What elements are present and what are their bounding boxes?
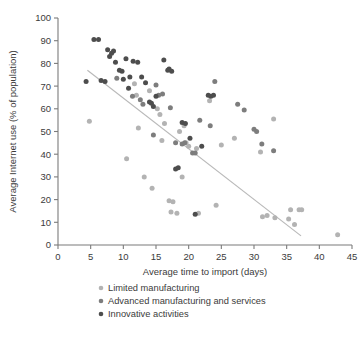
data-point (136, 126, 141, 131)
data-point (286, 216, 291, 221)
data-point (182, 140, 187, 145)
scatter-chart: 0102030405060708090100 05101520253035404… (0, 0, 361, 339)
data-point (127, 75, 132, 80)
data-point (132, 81, 137, 86)
data-point (174, 211, 179, 216)
data-point (258, 149, 263, 154)
data-point (87, 119, 92, 124)
x-tick-label: 40 (314, 251, 325, 262)
data-point (126, 86, 131, 91)
data-point (170, 199, 175, 204)
data-point (169, 69, 174, 74)
x-axis: 051015202530354045 (55, 245, 357, 262)
data-point (235, 102, 240, 107)
data-point (157, 112, 162, 117)
x-tick-label: 5 (88, 251, 93, 262)
data-point (124, 156, 129, 161)
data-point (130, 94, 135, 99)
data-point (162, 121, 167, 126)
data-point (260, 214, 265, 219)
data-point (193, 151, 198, 156)
y-tick-label: 60 (40, 103, 51, 114)
data-point (84, 79, 89, 84)
data-point (183, 121, 188, 126)
data-points (84, 37, 341, 237)
y-tick-label: 30 (40, 171, 51, 182)
data-point (169, 210, 174, 215)
x-tick-label: 25 (216, 251, 227, 262)
data-point (147, 88, 152, 93)
x-tick-label: 30 (249, 251, 260, 262)
data-point (212, 79, 217, 84)
legend-marker (99, 299, 104, 304)
data-point (271, 117, 276, 122)
data-point (150, 186, 155, 191)
data-point (111, 48, 116, 53)
data-point (160, 92, 165, 97)
y-tick-label: 10 (40, 217, 51, 228)
data-point (173, 140, 178, 145)
data-point (159, 138, 164, 143)
data-point (199, 144, 204, 149)
data-point (292, 222, 297, 227)
data-point (114, 76, 119, 81)
data-point (180, 174, 185, 179)
x-tick-label: 45 (347, 251, 358, 262)
data-point (103, 79, 108, 84)
x-tick-label: 0 (55, 251, 60, 262)
data-point (151, 104, 156, 109)
legend-marker (99, 286, 104, 291)
data-point (151, 132, 156, 137)
data-point (259, 141, 264, 146)
data-point (138, 97, 143, 102)
data-point (232, 136, 237, 141)
data-point (140, 102, 145, 107)
y-axis: 0102030405060708090100 (35, 12, 58, 250)
data-point (272, 215, 277, 220)
data-point (105, 47, 110, 52)
data-point (91, 37, 96, 42)
y-tick-label: 100 (35, 12, 51, 23)
data-point (120, 69, 125, 74)
x-tick-label: 20 (183, 251, 194, 262)
y-tick-label: 70 (40, 81, 51, 92)
y-tick-label: 0 (46, 239, 51, 250)
data-point (123, 56, 128, 61)
data-point (211, 93, 216, 98)
data-point (176, 165, 181, 170)
y-tick-label: 50 (40, 126, 51, 137)
data-point (121, 77, 126, 82)
data-point (194, 146, 199, 151)
data-point (271, 148, 276, 153)
legend-label: Advanced manufacturing and services (108, 296, 266, 306)
y-tick-label: 40 (40, 149, 51, 160)
data-point (207, 98, 212, 103)
legend-marker (99, 312, 104, 317)
data-point (214, 203, 219, 208)
y-tick-label: 90 (40, 35, 51, 46)
data-point (299, 207, 304, 212)
data-point (154, 82, 159, 87)
chart-canvas: 0102030405060708090100 05101520253035404… (0, 0, 361, 339)
data-point (288, 207, 293, 212)
data-point (161, 58, 166, 63)
x-tick-label: 35 (281, 251, 292, 262)
data-point (131, 59, 136, 64)
data-point (113, 60, 118, 65)
legend-label: Limited manufacturing (108, 283, 199, 293)
data-point (265, 213, 270, 218)
data-point (143, 80, 148, 85)
x-tick-label: 10 (118, 251, 129, 262)
y-axis-title: Average Internet use (% of population) (7, 50, 18, 212)
data-point (242, 107, 247, 112)
data-point (168, 105, 173, 110)
data-point (96, 37, 101, 42)
data-point (208, 123, 213, 128)
chart-legend: Limited manufacturingAdvanced manufactur… (99, 283, 266, 319)
y-tick-label: 80 (40, 58, 51, 69)
data-point (187, 136, 192, 141)
data-point (142, 174, 147, 179)
x-axis-title: Average time to import (days) (143, 266, 267, 277)
legend-label: Innovative activities (108, 309, 189, 319)
data-point (177, 129, 182, 134)
